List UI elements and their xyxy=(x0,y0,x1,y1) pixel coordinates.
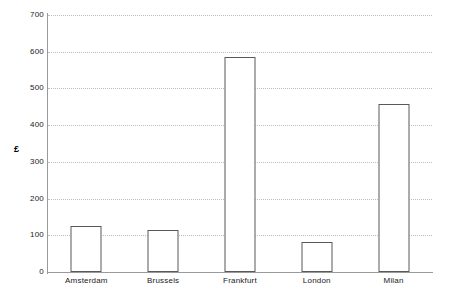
bar-london[interactable] xyxy=(301,242,332,272)
bar-amsterdam[interactable] xyxy=(71,226,102,272)
x-axis-tick-labels: Amsterdam Brussels Frankfurt London Mila… xyxy=(48,277,432,293)
bar-milan[interactable] xyxy=(378,104,409,272)
y-tick-label-200: 200 xyxy=(6,195,44,203)
x-tick-label-milan: Milan xyxy=(384,277,404,285)
y-axis-tick-labels: 700 600 500 400 300 200 100 0 xyxy=(0,0,44,305)
bar-frankfurt[interactable] xyxy=(224,57,255,272)
bar-slot-london xyxy=(278,15,355,272)
bar-brussels[interactable] xyxy=(148,230,179,272)
x-tick-label-frankfurt: Frankfurt xyxy=(223,277,257,285)
y-tick-label-700: 700 xyxy=(6,11,44,19)
bar-slot-amsterdam xyxy=(48,15,125,272)
y-tick-label-100: 100 xyxy=(6,231,44,239)
x-axis-line xyxy=(47,272,433,273)
y-tick-label-500: 500 xyxy=(6,84,44,92)
y-axis-title: £ xyxy=(14,145,19,154)
bars-layer xyxy=(48,15,432,272)
y-tick-label-0: 0 xyxy=(6,268,44,276)
x-tick-label-brussels: Brussels xyxy=(147,277,179,285)
bar-slot-milan xyxy=(355,15,432,272)
bar-slot-brussels xyxy=(125,15,202,272)
y-tick-label-600: 600 xyxy=(6,48,44,56)
bar-slot-frankfurt xyxy=(202,15,279,272)
y-tick-label-300: 300 xyxy=(6,158,44,166)
x-tick-label-london: London xyxy=(303,277,331,285)
x-tick-label-amsterdam: Amsterdam xyxy=(65,277,108,285)
y-tick-label-400: 400 xyxy=(6,121,44,129)
bar-chart: 700 600 500 400 300 200 100 0 £ Amsterda… xyxy=(0,0,454,305)
